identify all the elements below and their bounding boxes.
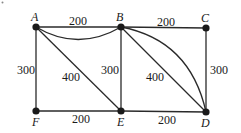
- node-label-a: A: [30, 10, 39, 24]
- weight-e-d: 200: [158, 113, 176, 127]
- graph-diagram: A B C D E F 200 200 300 400 300 400 300 …: [0, 0, 241, 133]
- node-label-d: D: [200, 116, 210, 130]
- node-f: [32, 107, 39, 114]
- weight-a-f: 300: [17, 63, 35, 77]
- node-label-b: B: [116, 10, 124, 24]
- weight-c-d: 300: [210, 63, 228, 77]
- edge-e-d: [121, 111, 206, 112]
- node-b: [117, 23, 124, 30]
- corner-mark: [2, 2, 4, 4]
- weight-a-e: 400: [62, 70, 80, 84]
- edge-a-b-curved: [36, 27, 121, 40]
- weight-a-b: 200: [69, 14, 87, 28]
- weight-b-c: 200: [157, 15, 175, 29]
- node-label-f: F: [31, 115, 40, 129]
- node-a: [32, 23, 39, 30]
- node-d: [202, 108, 209, 115]
- node-c: [202, 24, 209, 31]
- node-label-c: C: [201, 11, 210, 25]
- node-e: [117, 107, 124, 114]
- weight-f-e: 200: [72, 112, 90, 126]
- weight-b-d: 400: [146, 70, 164, 84]
- node-label-e: E: [116, 115, 125, 129]
- weight-b-e: 300: [101, 63, 119, 77]
